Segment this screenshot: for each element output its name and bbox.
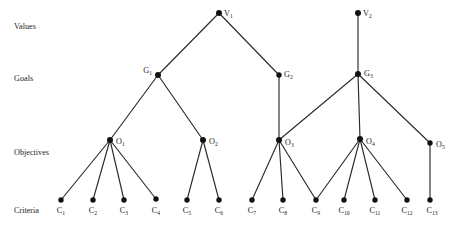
node-g1[interactable] (155, 72, 161, 78)
node-v2[interactable] (355, 10, 361, 16)
node-c13[interactable] (427, 197, 432, 202)
node-c6[interactable] (216, 197, 221, 202)
node-label-c12: C12 (401, 206, 412, 216)
node-v1[interactable] (216, 10, 222, 16)
edge-o3-c8 (279, 140, 283, 200)
node-label-c1: C1 (57, 206, 65, 216)
node-o4[interactable] (357, 136, 363, 142)
node-c10[interactable] (341, 197, 346, 202)
edge-g3-o5 (358, 74, 430, 143)
node-o3[interactable] (276, 137, 282, 143)
node-label-g1: G1 (143, 66, 152, 76)
edge-v1-g1 (158, 13, 219, 75)
edge-o3-c7 (252, 140, 279, 200)
node-label-c2: C2 (89, 206, 97, 216)
edge-v1-g2 (219, 13, 279, 75)
node-c12[interactable] (404, 197, 409, 202)
node-o5[interactable] (427, 140, 432, 145)
node-o1[interactable] (107, 137, 113, 143)
node-label-layer: V1V2G1G2G3O1O2O3O4O5C1C2C3C4C5C6C7C8C9C1… (57, 9, 445, 216)
edge-g3-o4 (358, 74, 360, 139)
edge-o4-c9 (316, 139, 360, 200)
node-label-c5: C5 (183, 206, 191, 216)
edge-g1-o1 (110, 75, 158, 140)
node-label-c4: C4 (152, 206, 160, 216)
node-label-c10: C10 (338, 206, 349, 216)
node-label-v1: V1 (224, 9, 233, 19)
node-c11[interactable] (372, 197, 377, 202)
node-label-o2: O2 (209, 137, 218, 147)
node-label-o4: O4 (366, 137, 375, 147)
node-c5[interactable] (184, 197, 189, 202)
node-c3[interactable] (121, 197, 126, 202)
edge-o2-c6 (203, 140, 219, 200)
edge-layer (61, 13, 430, 200)
edge-o1-c2 (93, 140, 110, 200)
node-label-c9: C9 (312, 206, 320, 216)
row-values: Values (14, 22, 36, 31)
node-label-g2: G2 (284, 70, 293, 80)
edge-g3-o3 (279, 74, 358, 140)
edge-o1-c1 (61, 140, 110, 200)
node-c2[interactable] (90, 197, 95, 202)
node-label-c13: C13 (426, 206, 437, 216)
hierarchy-diagram: V1V2G1G2G3O1O2O3O4O5C1C2C3C4C5C6C7C8C9C1… (0, 0, 460, 228)
node-label-o5: O5 (436, 140, 445, 150)
node-c4[interactable] (153, 196, 158, 201)
node-label-c3: C3 (120, 206, 128, 216)
row-label-layer: ValuesGoalsObjectivesCriteria (14, 22, 49, 215)
node-c9[interactable] (313, 197, 318, 202)
node-g2[interactable] (276, 72, 281, 77)
row-criteria: Criteria (14, 206, 39, 215)
node-label-g3: G3 (364, 69, 373, 79)
row-goals: Goals (14, 74, 33, 83)
node-layer (58, 10, 432, 203)
node-label-c8: C8 (279, 206, 287, 216)
node-label-c11: C11 (370, 206, 381, 216)
edge-g1-o2 (158, 75, 203, 140)
node-label-o1: O1 (116, 137, 125, 147)
edge-o3-c9 (279, 140, 316, 200)
row-objectives: Objectives (14, 148, 49, 157)
edge-o2-c5 (187, 140, 203, 200)
node-label-v2: V2 (363, 9, 372, 19)
node-label-c7: C7 (248, 206, 256, 216)
node-label-c6: C6 (215, 206, 223, 216)
hierarchy-diagram-page: V1V2G1G2G3O1O2O3O4O5C1C2C3C4C5C6C7C8C9C1… (0, 0, 460, 228)
node-label-o3: O3 (285, 138, 294, 148)
node-c8[interactable] (280, 197, 285, 202)
node-o2[interactable] (200, 137, 206, 143)
node-g3[interactable] (355, 71, 361, 77)
node-c1[interactable] (58, 197, 63, 202)
edge-o4-c10 (344, 139, 360, 200)
node-c7[interactable] (249, 197, 254, 202)
